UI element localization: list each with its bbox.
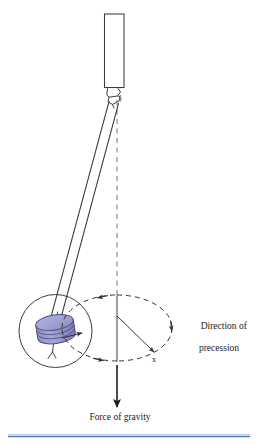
precession-label-line1: Direction of <box>201 321 247 331</box>
precession-label-line2: precession <box>183 343 255 354</box>
precession-arrowheads <box>93 296 172 361</box>
radius-marker-label: x <box>152 355 156 364</box>
figure-container: Direction of precession Force of gravity… <box>0 0 257 443</box>
shaft-left-rail <box>52 102 110 316</box>
support-post <box>105 14 125 88</box>
gravity-label: Force of gravity <box>57 412 183 423</box>
gyroscope-shaft <box>51 102 118 322</box>
pivot-joint <box>107 89 121 109</box>
radius-vector <box>117 316 154 352</box>
precession-label: Direction of precession <box>183 310 255 376</box>
support-post-body <box>105 14 125 88</box>
spin-disk <box>35 312 77 346</box>
pivot-stem <box>112 104 114 108</box>
spin-axle-foot <box>48 352 56 359</box>
shaft-right-rail <box>62 104 119 315</box>
precession-arc-bottom-right <box>117 328 172 361</box>
precession-arc-top-right <box>117 295 172 328</box>
gyroscope-precession-illustration <box>0 0 257 443</box>
